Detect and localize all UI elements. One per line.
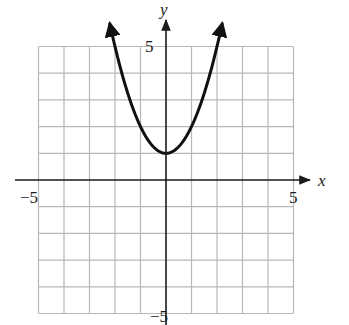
x-axis-label: x	[317, 171, 326, 190]
coordinate-plane: x y 5 −5 −5 5	[0, 0, 349, 325]
axes	[15, 20, 310, 325]
y-min-tick-label: −5	[150, 307, 168, 325]
x-max-tick-label: 5	[289, 188, 298, 207]
x-min-tick-label: −5	[20, 188, 38, 207]
parabola-graph: x y 5 −5 −5 5	[0, 0, 349, 325]
y-axis-label: y	[158, 0, 168, 19]
axis-labels: x y 5 −5 −5 5	[20, 0, 326, 325]
y-max-tick-label: 5	[145, 37, 154, 56]
